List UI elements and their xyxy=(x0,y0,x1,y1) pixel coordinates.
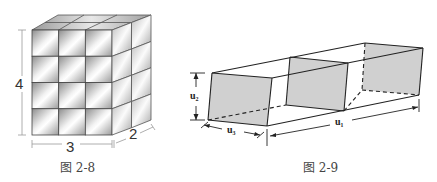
width-label: 3 xyxy=(66,139,74,154)
front-face xyxy=(32,30,112,135)
figure-caption-2-8: 图 2-8 xyxy=(60,158,95,175)
u2-label: u₂ xyxy=(190,91,199,101)
u1-label: u₁ xyxy=(335,117,344,127)
back-cross-section xyxy=(362,43,423,95)
u3-label: u₃ xyxy=(227,125,236,135)
prism-figure xyxy=(190,43,423,146)
side-face xyxy=(112,15,151,135)
height-label: 4 xyxy=(15,76,23,91)
figure-caption-2-9: 图 2-9 xyxy=(303,158,338,175)
depth-label: 2 xyxy=(129,126,137,141)
